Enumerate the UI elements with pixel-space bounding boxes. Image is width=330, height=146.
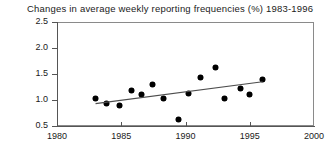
trend-line (0, 0, 330, 146)
chart-container: Changes in average weekly reporting freq… (0, 0, 330, 146)
